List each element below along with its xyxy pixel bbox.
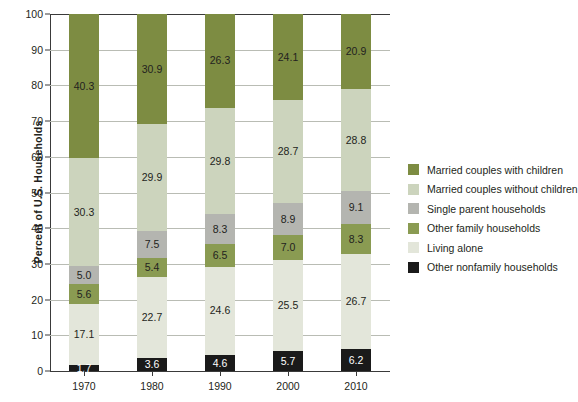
bar-2010[interactable]: 20.928.89.18.326.76.2 [341, 14, 371, 371]
y-tick-label: 30 [0, 258, 50, 270]
y-tick-label: 60 [0, 151, 50, 163]
legend-swatch-icon [408, 223, 419, 234]
bar-segment[interactable]: 5.6 [69, 284, 99, 304]
bar-1990[interactable]: 26.329.88.36.524.64.6 [205, 14, 235, 371]
bar-1980[interactable]: 30.929.97.55.422.73.6 [137, 14, 167, 371]
x-tick-mark [288, 371, 289, 376]
bar-segment[interactable]: 7.5 [137, 231, 167, 258]
legend-label: Living alone [427, 242, 483, 254]
legend-item[interactable]: Married couples with children [408, 160, 578, 180]
bar-segment[interactable]: 3.6 [137, 358, 167, 371]
x-tick-mark [84, 371, 85, 376]
y-tick-label: 70 [0, 115, 50, 127]
bar-segment[interactable]: 26.3 [205, 14, 235, 108]
bar-segment[interactable]: 29.9 [137, 124, 167, 231]
bar-segment[interactable]: 8.3 [341, 224, 371, 254]
legend-swatch-icon [408, 262, 419, 273]
legend-item[interactable]: Single parent households [408, 199, 578, 219]
x-tick-label: 1970 [49, 380, 119, 392]
x-tick-mark [152, 371, 153, 376]
x-tick-mark [356, 371, 357, 376]
bar-segment[interactable]: 6.5 [205, 244, 235, 267]
y-tick-label: 100 [0, 8, 50, 20]
bar-segment[interactable]: 8.9 [273, 203, 303, 235]
bar-segment[interactable]: 22.7 [137, 277, 167, 358]
bar-segment[interactable]: 4.6 [205, 355, 235, 371]
bar-segment[interactable]: 5.4 [137, 258, 167, 277]
legend-item[interactable]: Other nonfamily households [408, 258, 578, 278]
bar-segment[interactable]: 6.2 [341, 349, 371, 371]
bar-segment[interactable]: 24.1 [273, 14, 303, 100]
bar-segment[interactable]: 7.0 [273, 235, 303, 260]
legend-item[interactable]: Other family households [408, 219, 578, 239]
x-tick-label: 2000 [253, 380, 323, 392]
legend: Married couples with childrenMarried cou… [408, 160, 578, 277]
bar-segment[interactable]: 29.8 [205, 108, 235, 214]
y-tick-label: 0 [0, 365, 50, 377]
bar-segment[interactable]: 28.7 [273, 100, 303, 202]
bar-segment[interactable]: 30.9 [137, 14, 167, 124]
x-tick-mark [220, 371, 221, 376]
legend-item[interactable]: Living alone [408, 238, 578, 258]
bar-segment[interactable]: 28.8 [341, 89, 371, 192]
bar-segment[interactable]: 8.3 [205, 214, 235, 244]
legend-label: Other nonfamily households [427, 261, 558, 273]
x-tick-label: 1990 [185, 380, 255, 392]
bar-segment[interactable]: 25.5 [273, 260, 303, 351]
legend-label: Other family households [427, 222, 540, 234]
bar-segment[interactable]: 20.9 [341, 14, 371, 89]
plot-area: 1009080706050403020100 40.330.35.05.617.… [50, 14, 390, 371]
legend-item[interactable]: Married couples without children [408, 180, 578, 200]
y-tick-label: 20 [0, 294, 50, 306]
legend-swatch-icon [408, 242, 419, 253]
y-tick-label: 40 [0, 222, 50, 234]
bar-2000[interactable]: 24.128.78.97.025.55.7 [273, 14, 303, 371]
x-tick-label: 2010 [321, 380, 391, 392]
bar-segment[interactable]: 5.7 [273, 351, 303, 371]
bar-segment[interactable]: 40.3 [69, 14, 99, 158]
legend-label: Single parent households [427, 203, 546, 215]
y-tick-label: 90 [0, 44, 50, 56]
bar-segment[interactable]: 5.0 [69, 266, 99, 284]
bar-segment[interactable]: 17.1 [69, 304, 99, 365]
bar-segment[interactable]: 24.6 [205, 267, 235, 355]
legend-swatch-icon [408, 184, 419, 195]
y-tick-label: 10 [0, 329, 50, 341]
legend-swatch-icon [408, 164, 419, 175]
legend-label: Married couples without children [427, 183, 578, 195]
x-tick-label: 1980 [117, 380, 187, 392]
legend-swatch-icon [408, 203, 419, 214]
bar-segment[interactable]: 26.7 [341, 254, 371, 349]
bar-segment[interactable]: 9.1 [341, 191, 371, 223]
y-tick-label: 80 [0, 79, 50, 91]
legend-label: Married couples with children [427, 164, 563, 176]
bar-segment[interactable]: 30.3 [69, 158, 99, 266]
bar-1970[interactable]: 40.330.35.05.617.11.7 [69, 14, 99, 371]
y-tick-label: 50 [0, 187, 50, 199]
